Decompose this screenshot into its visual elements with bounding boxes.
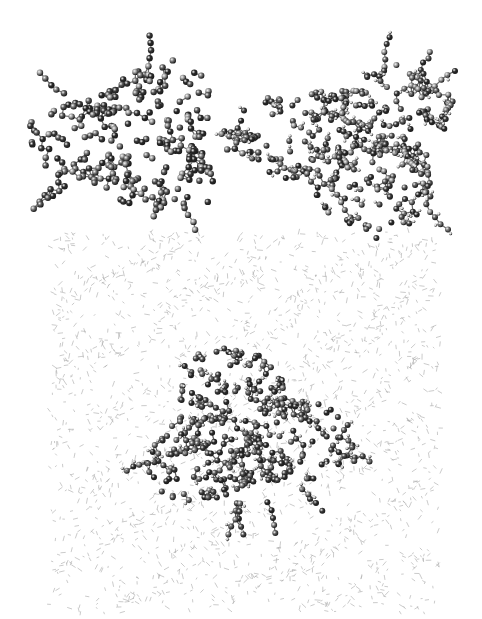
figure-canvas (0, 0, 482, 619)
atoms (215, 31, 458, 241)
cluster-with-hydrogens-panel (215, 31, 458, 241)
molecular-figure (0, 0, 482, 619)
solvated-cluster-panel (47, 228, 443, 616)
